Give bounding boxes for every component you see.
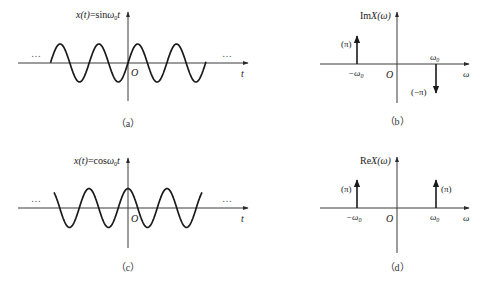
panel-a-caption: （a） — [116, 118, 140, 129]
ellipsis-left: … — [31, 48, 41, 59]
panel-b-title: ImX(ω) — [360, 10, 392, 22]
figure: x(t)=sinω0t O t … … （a） ImX(ω) (π) (−π) … — [0, 0, 483, 285]
panel-b-caption: （b） — [385, 116, 410, 127]
t-axis-label: t — [241, 213, 244, 224]
impulse-weight-pos: (π) — [441, 184, 452, 194]
omega-axis-label: ω — [463, 69, 469, 79]
origin-label: O — [386, 213, 393, 224]
pos-omega0-label: ω0 — [430, 212, 439, 223]
origin-label: O — [131, 67, 138, 78]
ellipsis-left: … — [31, 193, 41, 204]
panel-c-cosine-signal: x(t)=cosω0t O t … … （c） — [18, 155, 248, 273]
t-axis-label: t — [241, 68, 244, 79]
panel-b-imaginary-spectrum: ImX(ω) (π) (−π) −ω0 ω0 O ω （b） — [320, 10, 469, 127]
origin-label: O — [131, 213, 138, 224]
omega-axis-label: ω — [463, 213, 469, 223]
neg-omega0-label: −ω0 — [348, 68, 363, 79]
neg-omega0-label: −ω0 — [346, 212, 361, 223]
origin-label: O — [386, 69, 393, 80]
ellipsis-right: … — [222, 193, 232, 204]
ellipsis-right: … — [222, 48, 232, 59]
impulse-weight-neg: (π) — [341, 184, 352, 194]
impulse-weight-neg: (π) — [341, 39, 352, 49]
pos-omega0-label: ω0 — [430, 52, 439, 63]
panel-a-sine-signal: x(t)=sinω0t O t … … （a） — [18, 9, 248, 129]
panel-d-caption: （d） — [385, 262, 410, 273]
panel-c-title: x(t)=cosω0t — [73, 155, 120, 167]
panel-d-real-spectrum: ReX(ω) (π) (π) −ω0 ω0 O ω （d） — [320, 155, 469, 273]
impulse-weight-pos: (−π) — [411, 87, 427, 97]
panel-a-title: x(t)=sinω0t — [75, 9, 120, 21]
panel-c-caption: （c） — [116, 262, 140, 273]
panel-d-title: ReX(ω) — [360, 155, 392, 167]
